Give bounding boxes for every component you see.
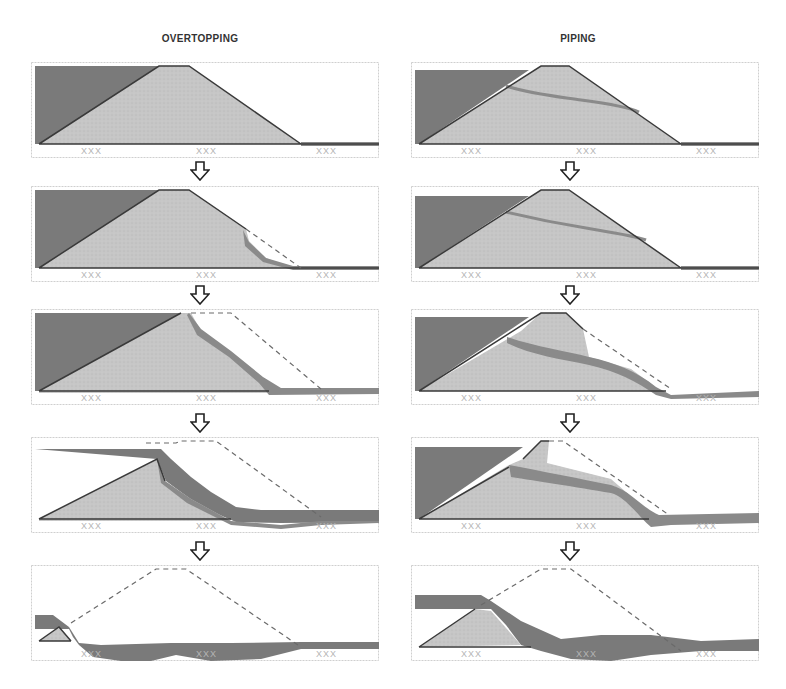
foundation-marks: XXX xyxy=(461,649,482,659)
overtopping-stage-4: XXXXXXXXX xyxy=(31,437,379,533)
overtopping-stage-3: XXXXXXXXX xyxy=(31,309,379,405)
foundation-marks: XXX xyxy=(576,393,597,403)
down-arrow-icon xyxy=(190,541,210,561)
foundation-marks: XXX xyxy=(461,521,482,531)
foundation-marks: XXX xyxy=(196,393,217,403)
foundation-marks: XXX xyxy=(461,393,482,403)
foundation-marks: XXX xyxy=(316,146,337,156)
foundation-marks: XXX xyxy=(576,521,597,531)
foundation-marks: XXX xyxy=(576,270,597,280)
foundation-marks: XXX xyxy=(696,270,717,280)
foundation-marks: XXX xyxy=(461,146,482,156)
overtopping-stage-5: XXXXXXXXX xyxy=(31,565,379,661)
foundation-marks: XXX xyxy=(196,649,217,659)
foundation-marks: XXX xyxy=(81,146,102,156)
foundation-marks: XXX xyxy=(81,521,102,531)
foundation-marks: XXX xyxy=(196,146,217,156)
piping-stage-5: XXXXXXXXX xyxy=(411,565,759,661)
piping-stage-3: XXXXXXXXX xyxy=(411,309,759,405)
foundation-marks: XXX xyxy=(696,146,717,156)
foundation-marks: XXX xyxy=(576,146,597,156)
foundation-marks: XXX xyxy=(196,521,217,531)
foundation-marks: XXX xyxy=(316,270,337,280)
foundation-marks: XXX xyxy=(696,521,717,531)
piping-stage-4: XXXXXXXXX xyxy=(411,437,759,533)
foundation-marks: XXX xyxy=(316,649,337,659)
foundation-marks: XXX xyxy=(316,521,337,531)
overtopping-title: OVERTOPPING xyxy=(150,33,250,44)
down-arrow-icon xyxy=(560,161,580,181)
down-arrow-icon xyxy=(560,413,580,433)
down-arrow-icon xyxy=(190,161,210,181)
foundation-marks: XXX xyxy=(461,270,482,280)
foundation-marks: XXX xyxy=(696,649,717,659)
overtopping-stage-2: XXXXXXXXX xyxy=(31,186,379,282)
foundation-marks: XXX xyxy=(81,649,102,659)
piping-title: PIPING xyxy=(528,33,628,44)
foundation-marks: XXX xyxy=(576,649,597,659)
foundation-marks: XXX xyxy=(316,393,337,403)
foundation-marks: XXX xyxy=(81,270,102,280)
piping-stage-2: XXXXXXXXX xyxy=(411,186,759,282)
down-arrow-icon xyxy=(190,285,210,305)
down-arrow-icon xyxy=(190,413,210,433)
foundation-marks: XXX xyxy=(81,393,102,403)
foundation-marks: XXX xyxy=(696,393,717,403)
foundation-marks: XXX xyxy=(196,270,217,280)
down-arrow-icon xyxy=(560,541,580,561)
overtopping-stage-1: XXXXXXXXX xyxy=(31,62,379,158)
piping-stage-1: XXXXXXXXX xyxy=(411,62,759,158)
down-arrow-icon xyxy=(560,285,580,305)
